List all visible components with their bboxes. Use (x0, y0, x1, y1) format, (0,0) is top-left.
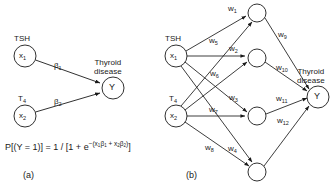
figure-container: TSH x1 T4 x2 β1 β2 Thyroid disease Y P[(… (0, 0, 335, 192)
edge-label-w10: w10 (276, 63, 288, 75)
edge-label-w4: w4 (228, 144, 237, 156)
edge-label-w7: w7 (209, 105, 218, 117)
edge-label-w6: w6 (210, 69, 219, 81)
formula-logistic: P[(Y = 1)] = 1 / [1 + e−(x1β1 + x2β2)] (5, 139, 131, 152)
label-b-t4: T4 (169, 94, 177, 106)
node-label-b-x2: x2 (170, 111, 177, 123)
panel-tag-a: (a) (23, 170, 34, 180)
edge-b-x2-h1 (181, 22, 252, 106)
panel-tag-b: (b) (186, 170, 197, 180)
edge-label-w12: w12 (277, 116, 289, 128)
label-a-thyroid-disease: Thyroid disease (94, 58, 122, 76)
label-a-tsh: TSH (14, 34, 30, 43)
edge-a-x1-y (36, 60, 101, 83)
edge-b-h4-y (264, 106, 309, 166)
node-label-b-x1: x1 (170, 51, 177, 63)
node-label-a-x2: x2 (19, 111, 26, 123)
label-a-t4: T4 (18, 94, 26, 106)
edge-label-w11: w11 (276, 94, 288, 106)
panel-b-graphics (165, 4, 329, 181)
edge-label-w3: w3 (229, 93, 238, 105)
label-b-tsh: TSH (165, 34, 181, 43)
edge-label-w5: w5 (209, 36, 218, 48)
edge-label-beta1: β1 (54, 61, 62, 73)
node-b-h3 (248, 107, 266, 125)
edge-label-w9: w9 (278, 30, 287, 42)
label-b-thyroid-disease: Thyroid disease (297, 67, 325, 85)
node-label-b-y: Y (314, 92, 320, 101)
node-b-h4 (248, 163, 266, 181)
edge-label-w1: w1 (228, 4, 237, 16)
edge-label-w8: w8 (205, 143, 214, 155)
node-b-h1 (248, 4, 266, 22)
edge-label-w2: w2 (229, 44, 238, 56)
edge-label-beta2: β2 (54, 97, 62, 109)
node-label-a-x1: x1 (19, 51, 26, 63)
node-label-a-y: Y (109, 83, 115, 92)
edge-b-x2-h4 (185, 122, 249, 166)
node-b-h2 (248, 49, 266, 67)
edge-a-x2-y (36, 93, 101, 112)
